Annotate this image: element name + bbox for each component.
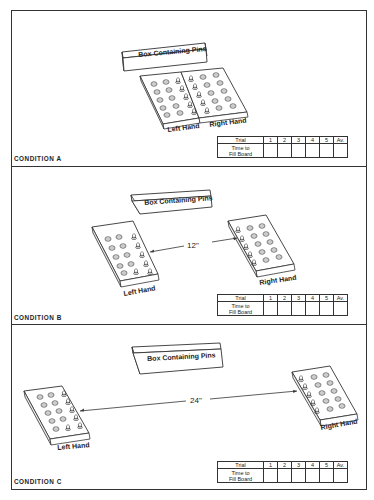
condition-b-trial-table: Trial 1 2 3 4 5 Av. Time toFill Board [217, 294, 348, 316]
trial-col-4: 4 [306, 462, 320, 469]
condition-b-label: CONDITION B [14, 313, 62, 322]
time-cell-average [334, 302, 348, 316]
trial-col-3: 3 [292, 137, 306, 144]
condition-c-distance-label: 24" [190, 396, 202, 405]
trial-header: Trial [218, 137, 264, 144]
time-cell-3 [292, 469, 306, 483]
trial-col-4: 4 [306, 137, 320, 144]
condition-a-label: CONDITION A [14, 154, 62, 163]
time-cell-2 [278, 144, 292, 158]
time-cell-3 [292, 302, 306, 316]
condition-b-distance-label: 12" [187, 241, 199, 250]
time-cell-1 [264, 302, 278, 316]
trial-col-3: 3 [292, 295, 306, 302]
time-cell-1 [264, 144, 278, 158]
time-to-fill-line2: Fill Board [229, 309, 252, 315]
trial-col-average: Av. [334, 462, 348, 469]
condition-c-label: CONDITION C [14, 477, 62, 486]
time-cell-4 [306, 302, 320, 316]
time-cell-5 [320, 144, 334, 158]
condition-b-left-board [92, 221, 159, 287]
trial-col-4: 4 [306, 295, 320, 302]
time-cell-2 [278, 302, 292, 316]
condition-c-right-board [292, 366, 358, 426]
time-to-fill-header: Time toFill Board [218, 144, 264, 158]
condition-a-trial-table: Trial 1 2 3 4 5 Av. Time toFill Board [217, 136, 348, 158]
time-to-fill-header: Time toFill Board [218, 302, 264, 316]
time-to-fill-line2: Fill Board [229, 151, 252, 157]
condition-b-right-board [228, 215, 295, 277]
trial-col-3: 3 [292, 462, 306, 469]
trial-col-2: 2 [278, 295, 292, 302]
time-cell-3 [292, 144, 306, 158]
trial-col-1: 1 [264, 295, 278, 302]
trial-header: Trial [218, 295, 264, 302]
trial-col-1: 1 [264, 462, 278, 469]
time-cell-4 [306, 469, 320, 483]
trial-header: Trial [218, 462, 264, 469]
condition-c-left-board [24, 386, 90, 445]
trial-col-5: 5 [320, 462, 334, 469]
trial-col-average: Av. [334, 137, 348, 144]
condition-c-trial-table: Trial 1 2 3 4 5 Av. Time toFill Board [217, 461, 348, 483]
time-cell-2 [278, 469, 292, 483]
trial-col-5: 5 [320, 137, 334, 144]
time-cell-1 [264, 469, 278, 483]
time-cell-4 [306, 144, 320, 158]
trial-col-average: Av. [334, 295, 348, 302]
condition-c-distance-line [80, 390, 297, 412]
time-cell-5 [320, 469, 334, 483]
time-to-fill-line2: Fill Board [229, 476, 252, 482]
time-cell-average [334, 469, 348, 483]
diagram-drawings [0, 0, 374, 500]
time-cell-5 [320, 302, 334, 316]
time-cell-average [334, 144, 348, 158]
trial-col-1: 1 [264, 137, 278, 144]
trial-col-5: 5 [320, 295, 334, 302]
trial-col-2: 2 [278, 462, 292, 469]
trial-col-2: 2 [278, 137, 292, 144]
time-to-fill-header: Time toFill Board [218, 469, 264, 483]
